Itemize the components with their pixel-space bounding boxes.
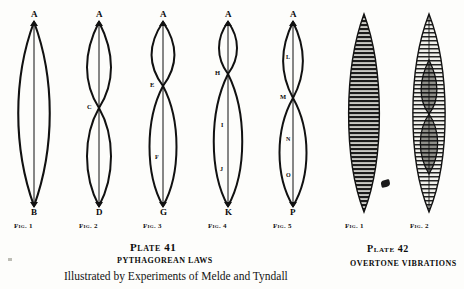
- plate-42-subtitle: OVERTONE VIBRATIONS: [350, 259, 457, 268]
- plate42-figure-2: [397, 8, 461, 220]
- plate42-figure-1: [332, 8, 396, 220]
- figure-overtone-1-caption: Fig. 1: [345, 222, 364, 230]
- figure-overtone-2-caption: Fig. 2: [410, 222, 429, 230]
- plate-illustration-page: A B Fig. 1 A C D: [0, 0, 464, 289]
- plate-42-title: Plate 42: [367, 243, 409, 254]
- paper-speck: [8, 258, 12, 261]
- figure-overtone-2-drawing: [397, 8, 461, 220]
- plate-42-group: Fig. 1: [0, 0, 464, 289]
- figure-overtone-1-drawing: [332, 8, 396, 220]
